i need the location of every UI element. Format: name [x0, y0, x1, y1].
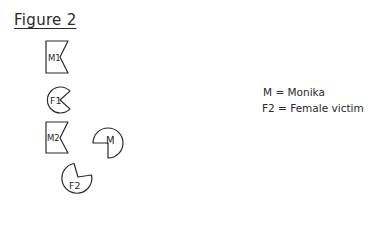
shape-f2: F2	[62, 164, 92, 194]
shape-m1: M1	[46, 41, 68, 73]
shape-f2-label: F2	[69, 180, 81, 191]
legend: M = Monika F2 = Female victim	[262, 84, 364, 116]
shape-m-label: M	[106, 135, 115, 146]
shape-m: M	[93, 128, 123, 158]
shape-f1: F1	[47, 87, 69, 113]
legend-item-female-victim: F2 = Female victim	[262, 100, 364, 116]
legend-item-monika: M = Monika	[262, 84, 364, 100]
shape-m2: M2	[46, 122, 68, 153]
shape-f1-label: F1	[50, 95, 62, 106]
shape-m2-label: M2	[47, 133, 60, 143]
shape-m1-label: M1	[48, 53, 61, 63]
